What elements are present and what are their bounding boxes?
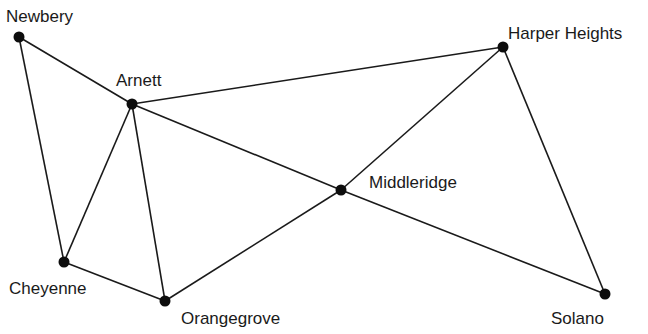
node-label-orangegrove: Orangegrove — [181, 309, 280, 328]
edge-arnett-cheyenne — [64, 104, 132, 262]
edge-arnett-middleridge — [132, 104, 341, 190]
edge-arnett-orangegrove — [132, 104, 165, 301]
node-middleridge — [336, 185, 347, 196]
node-label-middleridge: Middleridge — [369, 173, 457, 192]
node-label-solano: Solano — [551, 309, 604, 328]
edge-newbery-cheyenne — [19, 37, 64, 262]
node-cheyenne — [59, 257, 70, 268]
node-arnett — [127, 99, 138, 110]
edge-harper-solano — [503, 47, 605, 294]
labels-group: NewberyArnettHarper HeightsMiddleridgeCh… — [6, 7, 622, 328]
edges-group — [19, 37, 605, 301]
node-label-arnett: Arnett — [116, 71, 162, 90]
node-solano — [600, 289, 611, 300]
node-label-newbery: Newbery — [6, 7, 74, 26]
node-newbery — [14, 32, 25, 43]
node-label-cheyenne: Cheyenne — [9, 279, 87, 298]
node-orangegrove — [160, 296, 171, 307]
edge-middleridge-solano — [341, 190, 605, 294]
nodes-group — [14, 32, 611, 307]
edge-middleridge-orangegrove — [165, 190, 341, 301]
node-label-harper: Harper Heights — [508, 24, 622, 43]
node-harper — [498, 42, 509, 53]
graph-diagram: NewberyArnettHarper HeightsMiddleridgeCh… — [0, 0, 648, 334]
graph-svg: NewberyArnettHarper HeightsMiddleridgeCh… — [0, 0, 648, 334]
